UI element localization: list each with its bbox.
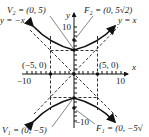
y-tick-10: 10 <box>62 22 72 32</box>
x-tick-neg10: −10 <box>17 76 32 86</box>
label-V2: V₂ = (0, 5) <box>7 5 46 15</box>
label-F2: F₂ = (0, 5√2) <box>83 5 132 15</box>
point-right <box>96 72 100 76</box>
label-F1: F₁ = (0, −5√ <box>95 123 143 133</box>
x-tick-10: 10 <box>116 76 126 86</box>
y-tick-neg10: −10 <box>75 117 90 127</box>
label-asymptote-pos: y = x <box>117 15 137 25</box>
hyperbola-diagram: V₂ = (0, 5) F₂ = (0, 5√2) y = −x y = x y… <box>0 0 149 137</box>
point-F1 <box>72 106 76 110</box>
point-F2 <box>72 38 76 42</box>
label-V1: V₁ = (0, −5) <box>2 125 47 135</box>
label-asymptote-neg: y = −x <box>0 15 25 25</box>
x-axis-label: x <box>131 62 136 72</box>
point-left <box>49 72 53 76</box>
label-point-left: (−5, 0) <box>22 60 47 70</box>
label-point-right: (5, 0) <box>99 60 119 70</box>
point-V2 <box>72 48 76 52</box>
asymptote-y-eq-x <box>34 27 118 114</box>
y-axis-label: y <box>65 10 70 20</box>
point-V1 <box>72 96 76 100</box>
point-origin <box>72 72 76 76</box>
